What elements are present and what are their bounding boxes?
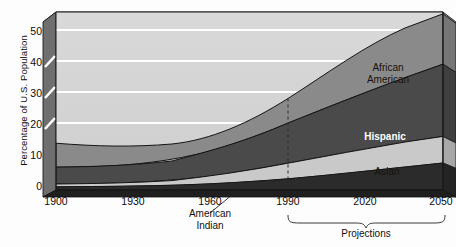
- x-tick-2020: 2020: [345, 196, 385, 207]
- chart-figure: Percentage of U.S. Population 50 40 30 2…: [0, 0, 456, 247]
- x-tick-1990: 1990: [268, 196, 308, 207]
- projections-bracket: [288, 215, 445, 228]
- plot-left-side-face: [43, 12, 56, 197]
- x-tick-1900: 1900: [36, 196, 76, 207]
- plot-right-side-face: [443, 12, 456, 197]
- x-tick-2050: 2050: [421, 196, 456, 207]
- series-label-hispanic: Hispanic: [349, 131, 421, 143]
- annotation-american-indian: American Indian: [164, 208, 256, 231]
- series-label-african-american: African American: [352, 62, 424, 85]
- series-label-asian: Asian: [358, 166, 416, 178]
- x-tick-1930: 1930: [113, 196, 153, 207]
- plot-base-face: [43, 190, 456, 197]
- x-tick-1960: 1960: [190, 196, 230, 207]
- annotation-projections: Projections: [326, 228, 406, 239]
